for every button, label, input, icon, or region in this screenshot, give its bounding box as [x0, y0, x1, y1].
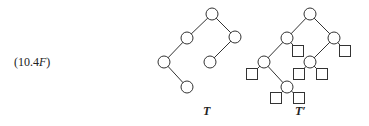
external-node-square — [271, 93, 282, 104]
internal-node-circle — [258, 56, 270, 68]
internal-node-circle — [281, 32, 293, 44]
tree-t-prime — [247, 8, 351, 104]
tree-label-t: T — [203, 104, 210, 119]
binary-trees-diagram — [0, 0, 369, 126]
internal-node-circle — [181, 81, 193, 93]
external-node-square — [340, 46, 351, 57]
internal-node-circle — [229, 31, 241, 43]
tree-t — [158, 8, 241, 93]
internal-node-circle — [181, 32, 193, 44]
internal-node-circle — [328, 32, 340, 44]
external-node-square — [294, 69, 305, 80]
external-node-square — [293, 46, 304, 57]
tree-label-t-prime: T′ — [295, 104, 306, 119]
internal-node-circle — [158, 56, 170, 68]
external-node-square — [294, 93, 305, 104]
external-node-square — [247, 69, 258, 80]
internal-node-circle — [206, 8, 218, 20]
internal-node-circle — [304, 56, 316, 68]
internal-node-circle — [281, 81, 293, 93]
external-node-square — [317, 69, 328, 80]
internal-node-circle — [304, 8, 316, 20]
internal-node-circle — [204, 56, 216, 68]
